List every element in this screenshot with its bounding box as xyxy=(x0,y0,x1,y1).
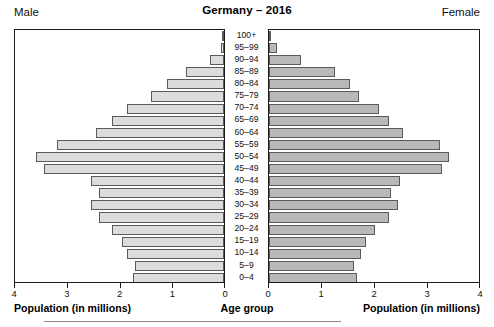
male-bar-90-94 xyxy=(210,55,224,65)
bar-row xyxy=(269,236,479,248)
age-group-label: 30–34 xyxy=(225,200,268,209)
age-group-label: 50–54 xyxy=(225,152,268,161)
male-bar-10-14 xyxy=(127,249,224,259)
bar-row xyxy=(15,175,224,187)
age-group-label: 95–99 xyxy=(225,43,268,52)
female-axis-caption: Population (in millions) xyxy=(363,302,480,314)
axis-tick-label: 4 xyxy=(11,288,16,299)
male-plot-panel xyxy=(14,29,225,283)
bar-row xyxy=(269,272,479,283)
bar-row xyxy=(15,199,224,211)
female-bar-70-74 xyxy=(269,104,379,114)
age-group-label: 45–49 xyxy=(225,164,268,173)
female-bar-65-69 xyxy=(269,116,389,126)
bar-row xyxy=(269,248,479,260)
female-bar-75-79 xyxy=(269,91,359,101)
footer-divider xyxy=(44,321,341,322)
age-group-label: 15–19 xyxy=(225,236,268,245)
bar-row xyxy=(15,272,224,283)
age-group-label: 25–29 xyxy=(225,212,268,221)
bar-row xyxy=(269,211,479,223)
age-group-label: 40–44 xyxy=(225,176,268,185)
male-bar-85-89 xyxy=(186,67,224,77)
bar-row xyxy=(15,151,224,163)
bar-row xyxy=(15,248,224,260)
bar-row xyxy=(15,54,224,66)
male-bar-rows xyxy=(15,30,224,282)
female-bar-55-59 xyxy=(269,140,440,150)
male-tick-axis: 43210 xyxy=(14,283,225,292)
male-bar-25-29 xyxy=(99,212,224,222)
bar-row xyxy=(15,211,224,223)
male-bar-80-84 xyxy=(167,79,224,89)
bar-row xyxy=(269,260,479,272)
chart-header: Male Germany – 2016 Female xyxy=(0,0,494,28)
male-bar-65-69 xyxy=(112,116,224,126)
male-bar-30-34 xyxy=(91,200,224,210)
bar-row xyxy=(269,115,479,127)
bar-row xyxy=(15,78,224,90)
age-group-label: 60–64 xyxy=(225,128,268,137)
age-group-label: 20–24 xyxy=(225,224,268,233)
bar-row xyxy=(15,90,224,102)
bar-row xyxy=(269,151,479,163)
male-bar-35-39 xyxy=(99,188,224,198)
female-bar-rows xyxy=(269,30,479,282)
age-group-label: 55–59 xyxy=(225,140,268,149)
axis-tick-label: 1 xyxy=(318,288,323,299)
female-bar-45-49 xyxy=(269,164,442,174)
female-tick-axis: 01234 xyxy=(268,283,480,292)
bar-row xyxy=(269,78,479,90)
male-bar-50-54 xyxy=(36,152,224,162)
female-bar-10-14 xyxy=(269,249,361,259)
female-bar-50-54 xyxy=(269,152,449,162)
female-bar-90-94 xyxy=(269,55,301,65)
age-group-axis: 100+95–9990–9485–8980–8475–7970–7465–696… xyxy=(225,29,268,283)
bar-row xyxy=(15,236,224,248)
male-bar-60-64 xyxy=(96,128,224,138)
male-bar-20-24 xyxy=(112,225,224,235)
age-group-label: 0–4 xyxy=(225,273,268,282)
female-bar-60-64 xyxy=(269,128,403,138)
male-bar-70-74 xyxy=(127,104,224,114)
age-group-label: 85–89 xyxy=(225,67,268,76)
bar-row xyxy=(15,115,224,127)
age-group-label: 75–79 xyxy=(225,91,268,100)
female-bar-15-19 xyxy=(269,237,366,247)
bar-row xyxy=(15,103,224,115)
age-group-label: 65–69 xyxy=(225,115,268,124)
axis-tick-label: 3 xyxy=(64,288,69,299)
female-bar-25-29 xyxy=(269,212,389,222)
age-group-label: 80–84 xyxy=(225,79,268,88)
age-group-label: 10–14 xyxy=(225,248,268,257)
age-group-label: 90–94 xyxy=(225,55,268,64)
female-bar-95-99 xyxy=(269,43,277,53)
female-bar-35-39 xyxy=(269,188,391,198)
bar-row xyxy=(269,187,479,199)
population-pyramid-figure: Male Germany – 2016 Female 100+95–9990–9… xyxy=(0,0,494,327)
female-bar-30-34 xyxy=(269,200,398,210)
male-bar-40-44 xyxy=(91,176,224,186)
bar-row xyxy=(15,139,224,151)
female-bar-85-89 xyxy=(269,67,335,77)
axis-tick-label: 1 xyxy=(170,288,175,299)
bar-row xyxy=(269,139,479,151)
axis-tick-label: 0 xyxy=(265,288,270,299)
female-side-label: Female xyxy=(442,6,480,18)
bar-row xyxy=(269,103,479,115)
bar-row xyxy=(15,66,224,78)
bar-row xyxy=(269,163,479,175)
axis-tick-label: 2 xyxy=(371,288,376,299)
age-group-label: 5–9 xyxy=(225,261,268,270)
axis-tick-label: 0 xyxy=(222,288,227,299)
bar-row xyxy=(269,54,479,66)
male-bar-100+ xyxy=(222,31,224,41)
female-bar-20-24 xyxy=(269,225,375,235)
bar-row xyxy=(269,199,479,211)
male-bar-15-19 xyxy=(122,237,224,247)
bar-row xyxy=(269,224,479,236)
bar-row xyxy=(15,30,224,42)
bar-row xyxy=(269,175,479,187)
bar-row xyxy=(15,187,224,199)
female-bar-80-84 xyxy=(269,79,350,89)
